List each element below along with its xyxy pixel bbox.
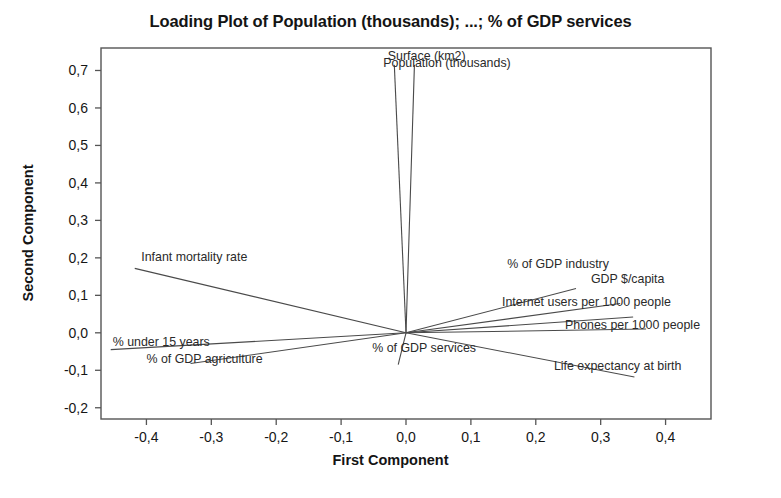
x-tick-label: -0,2 xyxy=(246,430,306,444)
x-tick-label: 0,4 xyxy=(636,430,696,444)
vector-label: Internet users per 1000 people xyxy=(502,296,671,309)
x-tick-label: -0,3 xyxy=(181,430,241,444)
vector-label: GDP $/capita xyxy=(591,273,664,286)
vector-label: Infant mortality rate xyxy=(141,251,247,264)
x-tick-label: 0,3 xyxy=(571,430,631,444)
vector-label: Life expectancy at birth xyxy=(554,360,681,373)
vector-label: Population (thousands) xyxy=(383,57,510,70)
y-tick-label: 0,0 xyxy=(44,326,88,340)
loading-plot: Loading Plot of Population (thousands); … xyxy=(0,0,781,498)
y-tick-label: -0,1 xyxy=(44,363,88,377)
vector-label: Phones per 1000 people xyxy=(565,319,700,332)
plot-canvas xyxy=(0,0,781,498)
y-tick-label: -0,2 xyxy=(44,401,88,415)
y-tick-label: 0,3 xyxy=(44,213,88,227)
vector-label: % of GDP agriculture xyxy=(146,353,262,366)
y-tick-label: 0,2 xyxy=(44,251,88,265)
y-tick-label: 0,4 xyxy=(44,176,88,190)
y-tick-label: 0,5 xyxy=(44,138,88,152)
vector-label: % of GDP industry xyxy=(507,258,609,271)
y-tick-label: 0,6 xyxy=(44,101,88,115)
x-tick-label: -0,4 xyxy=(116,430,176,444)
x-tick-label: -0,1 xyxy=(311,430,371,444)
x-tick-label: 0,0 xyxy=(376,430,436,444)
y-tick-label: 0,7 xyxy=(44,63,88,77)
vector-label: % of GDP services xyxy=(372,342,476,355)
x-tick-label: 0,1 xyxy=(441,430,501,444)
vector-label: % under 15 years xyxy=(113,336,210,349)
y-tick-label: 0,1 xyxy=(44,288,88,302)
x-tick-label: 0,2 xyxy=(506,430,566,444)
